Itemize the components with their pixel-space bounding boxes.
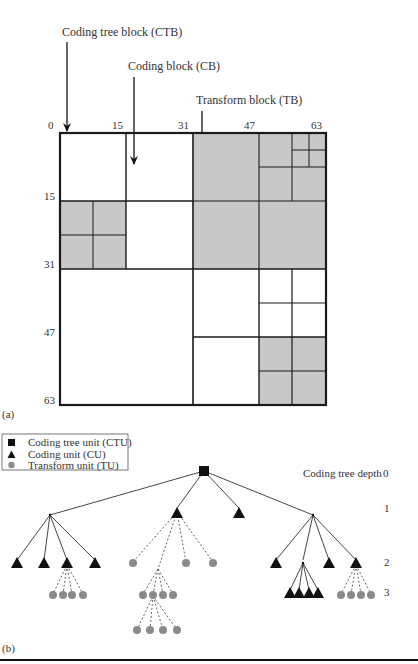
- x-tick: 63: [311, 119, 323, 131]
- annotation-cb-label: Coding block (CB): [128, 59, 220, 73]
- depth-labels: Coding tree depth 0 1 2 3: [303, 467, 390, 598]
- square-icon: [8, 439, 15, 446]
- y-tick: 47: [44, 326, 56, 338]
- tree-edges-dashed: [53, 512, 371, 630]
- x-tick: 47: [244, 119, 256, 131]
- depth-3: 3: [384, 586, 390, 598]
- x-tick: 31: [178, 119, 189, 131]
- figure: Coding tree block (CTB) Coding block (CB…: [0, 0, 418, 664]
- legend: Coding tree unit (CTU) Coding unit (CU) …: [2, 434, 132, 472]
- legend-tu-label: Transform unit (TU): [28, 459, 119, 472]
- depth-2: 2: [384, 556, 390, 568]
- split-junction: [49, 514, 51, 516]
- cu-nodes: [11, 507, 362, 598]
- y-tick: 31: [44, 258, 55, 270]
- annotation-tb-label: Transform block (TB): [196, 93, 302, 107]
- depth-title: Coding tree depth: [303, 467, 382, 479]
- y-tick: 15: [44, 190, 56, 202]
- x-axis-ticks: 0 15 31 47 63: [48, 119, 323, 131]
- ctu-node: [199, 466, 209, 476]
- tree-edges-solid: [17, 471, 356, 590]
- x-tick: 0: [48, 119, 54, 131]
- annotation-ctb: Coding tree block (CTB): [62, 25, 182, 132]
- depth-1: 1: [384, 502, 390, 514]
- split-junction: [312, 514, 314, 516]
- panel-b-label: (b): [2, 642, 15, 655]
- annotation-ctb-label: Coding tree block (CTB): [62, 25, 182, 39]
- panel-a-label: (a): [2, 408, 15, 421]
- circle-icon: [8, 462, 14, 468]
- split-junction: [302, 562, 304, 564]
- y-tick: 63: [44, 394, 56, 406]
- x-tick: 15: [112, 119, 124, 131]
- y-axis-ticks: 15 31 47 63: [44, 190, 56, 406]
- depth-0: 0: [383, 467, 389, 479]
- tu-nodes: [49, 559, 375, 634]
